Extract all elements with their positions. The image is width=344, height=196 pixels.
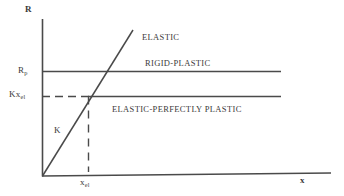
x-tick-xel-main: x: [80, 177, 85, 187]
curve-label-elastic: ELASTIC: [142, 33, 179, 42]
material-model-chart: R x Rp Kxel xel K ELASTIC RIGID-PLASTIC …: [0, 0, 344, 196]
x-axis: [42, 173, 331, 176]
y-tick-kxel-subscript: el: [20, 93, 25, 100]
y-tick-kxel-main: Kx: [9, 89, 20, 99]
y-tick-label-kxel: Kxel: [9, 90, 25, 99]
y-axis-label: R: [25, 5, 32, 14]
curve-label-rigid-plastic: RIGID-PLASTIC: [145, 59, 210, 68]
curve-label-elastic-perfectly-plastic: ELASTIC-PERFECTLY PLASTIC: [112, 105, 242, 114]
x-tick-xel-subscript: el: [85, 181, 90, 188]
chart-canvas: [0, 0, 344, 196]
stiffness-annotation-k: K: [54, 126, 61, 135]
x-tick-label-xel: xel: [80, 178, 90, 187]
elastic-line: [43, 30, 134, 176]
y-tick-rp-subscript: p: [24, 69, 27, 76]
y-tick-label-rp: Rp: [18, 66, 28, 75]
x-axis-label: x: [300, 176, 305, 185]
